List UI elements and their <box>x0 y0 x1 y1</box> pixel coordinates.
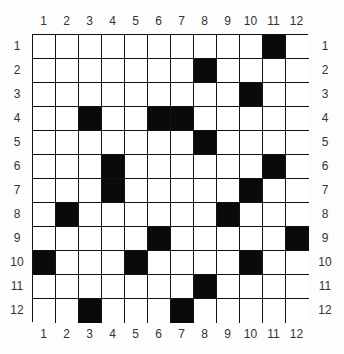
white-cell[interactable] <box>33 203 56 227</box>
white-cell[interactable] <box>194 227 217 251</box>
white-cell[interactable] <box>171 203 194 227</box>
white-cell[interactable] <box>102 275 125 299</box>
white-cell[interactable] <box>194 155 217 179</box>
white-cell[interactable] <box>79 203 102 227</box>
white-cell[interactable] <box>148 155 171 179</box>
white-cell[interactable] <box>217 299 240 323</box>
white-cell[interactable] <box>33 155 56 179</box>
white-cell[interactable] <box>56 179 79 203</box>
white-cell[interactable] <box>33 59 56 83</box>
white-cell[interactable] <box>286 179 309 203</box>
white-cell[interactable] <box>56 227 79 251</box>
white-cell[interactable] <box>148 203 171 227</box>
white-cell[interactable] <box>79 227 102 251</box>
white-cell[interactable] <box>171 179 194 203</box>
white-cell[interactable] <box>125 203 148 227</box>
white-cell[interactable] <box>102 35 125 59</box>
white-cell[interactable] <box>286 35 309 59</box>
white-cell[interactable] <box>217 59 240 83</box>
white-cell[interactable] <box>194 83 217 107</box>
white-cell[interactable] <box>56 35 79 59</box>
white-cell[interactable] <box>286 107 309 131</box>
white-cell[interactable] <box>56 275 79 299</box>
white-cell[interactable] <box>286 251 309 275</box>
white-cell[interactable] <box>79 179 102 203</box>
white-cell[interactable] <box>148 59 171 83</box>
white-cell[interactable] <box>33 131 56 155</box>
white-cell[interactable] <box>286 59 309 83</box>
white-cell[interactable] <box>240 227 263 251</box>
white-cell[interactable] <box>171 35 194 59</box>
white-cell[interactable] <box>194 179 217 203</box>
white-cell[interactable] <box>194 251 217 275</box>
white-cell[interactable] <box>263 83 286 107</box>
white-cell[interactable] <box>240 203 263 227</box>
white-cell[interactable] <box>56 59 79 83</box>
white-cell[interactable] <box>240 35 263 59</box>
white-cell[interactable] <box>217 275 240 299</box>
white-cell[interactable] <box>102 107 125 131</box>
white-cell[interactable] <box>56 299 79 323</box>
white-cell[interactable] <box>125 179 148 203</box>
white-cell[interactable] <box>125 275 148 299</box>
white-cell[interactable] <box>56 83 79 107</box>
white-cell[interactable] <box>263 227 286 251</box>
white-cell[interactable] <box>263 107 286 131</box>
white-cell[interactable] <box>148 251 171 275</box>
white-cell[interactable] <box>217 107 240 131</box>
white-cell[interactable] <box>125 131 148 155</box>
white-cell[interactable] <box>171 131 194 155</box>
white-cell[interactable] <box>79 275 102 299</box>
white-cell[interactable] <box>240 155 263 179</box>
white-cell[interactable] <box>102 227 125 251</box>
white-cell[interactable] <box>125 227 148 251</box>
white-cell[interactable] <box>102 131 125 155</box>
white-cell[interactable] <box>286 203 309 227</box>
white-cell[interactable] <box>240 107 263 131</box>
white-cell[interactable] <box>217 131 240 155</box>
white-cell[interactable] <box>148 275 171 299</box>
white-cell[interactable] <box>148 131 171 155</box>
white-cell[interactable] <box>240 299 263 323</box>
white-cell[interactable] <box>56 251 79 275</box>
white-cell[interactable] <box>33 107 56 131</box>
white-cell[interactable] <box>33 227 56 251</box>
white-cell[interactable] <box>125 59 148 83</box>
white-cell[interactable] <box>125 83 148 107</box>
white-cell[interactable] <box>56 131 79 155</box>
white-cell[interactable] <box>263 179 286 203</box>
white-cell[interactable] <box>217 179 240 203</box>
white-cell[interactable] <box>102 59 125 83</box>
white-cell[interactable] <box>33 179 56 203</box>
white-cell[interactable] <box>56 155 79 179</box>
white-cell[interactable] <box>217 155 240 179</box>
white-cell[interactable] <box>194 299 217 323</box>
white-cell[interactable] <box>148 299 171 323</box>
white-cell[interactable] <box>286 155 309 179</box>
white-cell[interactable] <box>171 227 194 251</box>
white-cell[interactable] <box>56 107 79 131</box>
white-cell[interactable] <box>286 131 309 155</box>
white-cell[interactable] <box>217 83 240 107</box>
white-cell[interactable] <box>102 203 125 227</box>
white-cell[interactable] <box>125 155 148 179</box>
white-cell[interactable] <box>240 131 263 155</box>
white-cell[interactable] <box>33 83 56 107</box>
white-cell[interactable] <box>33 35 56 59</box>
white-cell[interactable] <box>125 35 148 59</box>
white-cell[interactable] <box>217 251 240 275</box>
white-cell[interactable] <box>263 299 286 323</box>
white-cell[interactable] <box>194 203 217 227</box>
white-cell[interactable] <box>79 131 102 155</box>
white-cell[interactable] <box>286 83 309 107</box>
white-cell[interactable] <box>194 35 217 59</box>
white-cell[interactable] <box>171 275 194 299</box>
white-cell[interactable] <box>240 59 263 83</box>
white-cell[interactable] <box>79 59 102 83</box>
white-cell[interactable] <box>263 203 286 227</box>
white-cell[interactable] <box>171 83 194 107</box>
white-cell[interactable] <box>102 299 125 323</box>
white-cell[interactable] <box>263 251 286 275</box>
white-cell[interactable] <box>125 299 148 323</box>
white-cell[interactable] <box>263 131 286 155</box>
